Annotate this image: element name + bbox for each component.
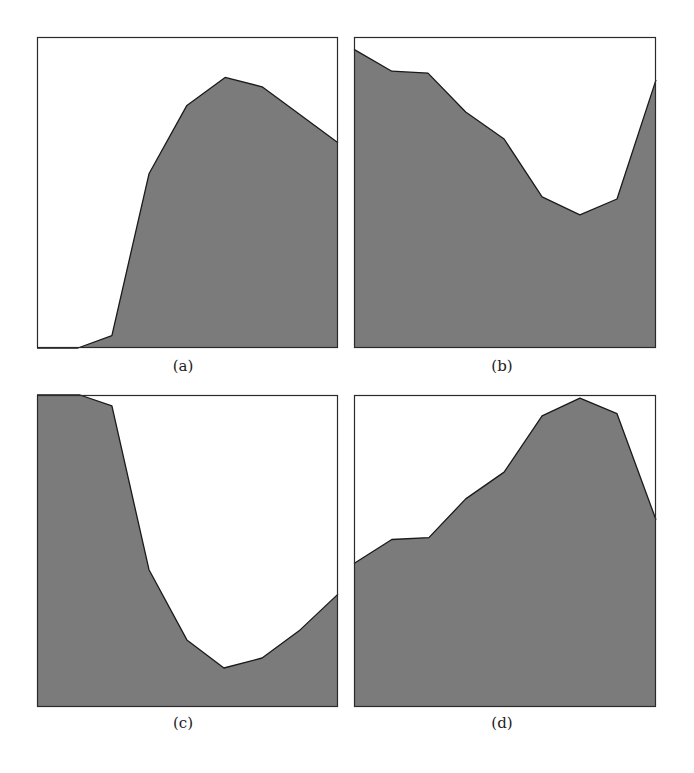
area-fill [354,398,656,707]
area-fill [37,77,338,348]
caption-b: (b) [472,357,532,375]
area-chart-d [354,395,656,707]
area-fill [37,395,338,707]
caption-c: (c) [153,714,213,732]
area-fill [354,49,656,348]
caption-a: (a) [153,357,213,375]
panel-d [354,395,656,707]
panel-c [37,395,338,707]
area-chart-a [37,37,338,348]
panel-b [354,37,656,348]
area-chart-c [37,395,338,707]
panel-a [37,37,338,348]
area-chart-b [354,37,656,348]
caption-d: (d) [472,714,532,732]
